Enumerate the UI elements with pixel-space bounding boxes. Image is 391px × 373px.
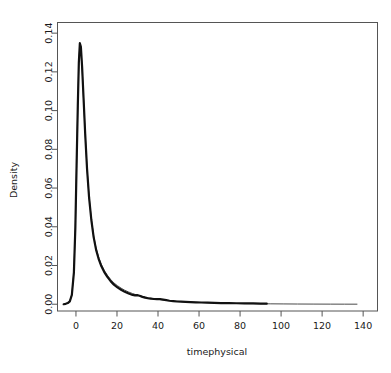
y-tick-label: 0.14: [43, 23, 54, 44]
x-axis-title: timephysical: [187, 346, 247, 357]
y-tick-label: 0.02: [43, 255, 54, 276]
x-axis: 020406080100120140: [73, 311, 372, 331]
x-tick-label: 20: [111, 320, 123, 331]
y-tick-label: 0.06: [43, 177, 54, 198]
y-tick-label: 0.10: [43, 100, 54, 121]
x-tick-label: 60: [193, 320, 205, 331]
y-axis-title: Density: [8, 162, 19, 198]
density-curve: [64, 43, 267, 304]
plot-frame: [58, 23, 378, 312]
series-group: [64, 43, 357, 304]
x-tick-label: 0: [73, 320, 79, 331]
y-tick-label: 0.08: [43, 139, 54, 160]
y-axis: 0.000.020.040.060.080.100.120.14: [43, 23, 58, 315]
y-tick-label: 0.00: [43, 294, 54, 315]
y-tick-label: 0.04: [43, 216, 54, 237]
x-tick-label: 140: [354, 320, 372, 331]
plot-canvas: 020406080100120140 0.000.020.040.060.080…: [0, 0, 391, 373]
x-tick-label: 120: [313, 320, 331, 331]
density-plot-figure: 020406080100120140 0.000.020.040.060.080…: [0, 0, 391, 373]
x-tick-label: 40: [152, 320, 164, 331]
density-curve: [64, 45, 357, 304]
x-tick-label: 100: [272, 320, 290, 331]
y-tick-label: 0.12: [43, 61, 54, 82]
x-tick-label: 80: [234, 320, 246, 331]
